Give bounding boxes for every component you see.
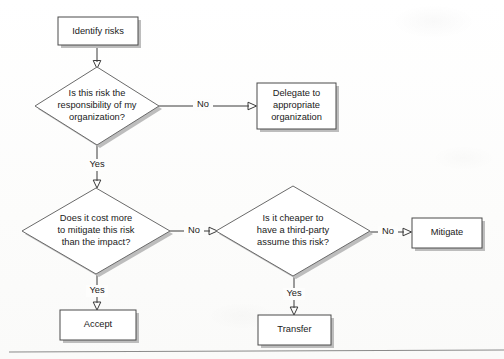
thirdparty-label-line3: assume this risk? — [257, 237, 329, 247]
flowchart-canvas: Identify risks Is this risk the responsi… — [0, 0, 504, 359]
flowchart-page: Identify risks Is this risk the responsi… — [0, 0, 504, 359]
arrowhead-cost-to-accept — [93, 302, 101, 310]
delegate-label-line3: organization — [271, 112, 322, 122]
node-thirdparty-decision[interactable]: Is it cheaper to have a third-party assu… — [216, 186, 373, 279]
node-cost-decision[interactable]: Does it cost more to mitigate this risk … — [22, 188, 173, 277]
cost-label-line2: to mitigate this risk — [58, 225, 135, 235]
responsibility-label-line1: Is this risk the — [69, 88, 126, 98]
cost-label-line3: than the impact? — [62, 237, 131, 247]
responsibility-label-line3: organization? — [69, 112, 125, 122]
identify-risks-label: Identify risks — [72, 26, 124, 36]
node-mitigate[interactable]: Mitigate — [412, 218, 485, 251]
bottom-frame-rule — [9, 350, 504, 352]
edge-labels: No Yes No Yes No Yes — [86, 99, 398, 300]
node-delegate[interactable]: Delegate to appropriate organization — [257, 83, 339, 132]
edge-label-thirdparty-yes: Yes — [286, 288, 302, 298]
connectors — [93, 46, 411, 316]
delegate-label-line1: Delegate to — [273, 88, 321, 98]
cost-label-line1: Does it cost more — [60, 213, 132, 223]
node-responsibility-decision[interactable]: Is this risk the responsibility of my or… — [35, 67, 162, 148]
edge-label-responsibility-no: No — [197, 99, 209, 109]
arrowhead-thirdparty-to-mitigate — [403, 228, 412, 236]
arrowhead-responsibility-to-delegate — [248, 102, 257, 110]
arrowhead-responsibility-to-cost — [93, 180, 101, 188]
edge-label-cost-no: No — [188, 225, 200, 235]
thirdparty-label-line1: Is it cheaper to — [263, 213, 324, 223]
edge-label-responsibility-yes: Yes — [89, 159, 105, 169]
node-identify-risks[interactable]: Identify risks — [58, 17, 141, 48]
edge-label-cost-yes: Yes — [89, 285, 105, 295]
delegate-label-line2: appropriate — [273, 100, 320, 110]
thirdparty-label-line2: have a third-party — [257, 225, 330, 235]
transfer-label: Transfer — [277, 324, 311, 334]
edge-label-thirdparty-no: No — [382, 226, 394, 236]
mitigate-label: Mitigate — [431, 227, 464, 237]
node-accept[interactable]: Accept — [60, 310, 139, 343]
node-transfer[interactable]: Transfer — [258, 315, 334, 348]
responsibility-label-line2: responsibility of my — [57, 100, 136, 110]
accept-label: Accept — [84, 319, 113, 329]
arrowhead-thirdparty-to-transfer — [290, 307, 298, 315]
